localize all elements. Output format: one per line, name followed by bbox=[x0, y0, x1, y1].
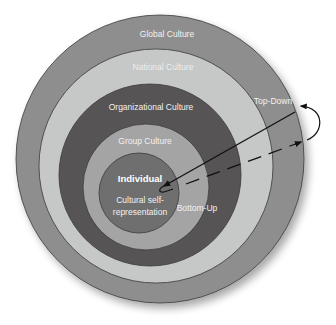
global-culture-label: Global Culture bbox=[140, 29, 195, 39]
individual-circle bbox=[99, 153, 179, 233]
feedback-loop-arrow bbox=[301, 106, 320, 140]
national-culture-label: National Culture bbox=[133, 62, 194, 72]
group-culture-label: Group Culture bbox=[118, 136, 172, 146]
individual-sublabel-line2: representation bbox=[113, 207, 168, 217]
individual-sublabel-line1: Cultural self- bbox=[116, 195, 164, 205]
organizational-culture-label: Organizational Culture bbox=[109, 102, 194, 112]
culture-levels-diagram: Global Culture National Culture Organiza… bbox=[0, 0, 336, 325]
top-down-label: Top-Down bbox=[254, 96, 293, 106]
individual-label: Individual bbox=[118, 173, 162, 184]
bottom-up-label: Bottom-Up bbox=[177, 203, 218, 213]
